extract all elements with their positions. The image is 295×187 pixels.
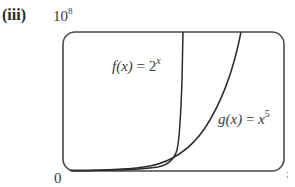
curve-g-power	[70, 32, 241, 171]
viewing-window-plot	[0, 0, 295, 187]
f-function-label: f(x) = 2x	[112, 55, 161, 75]
trailing-punctuation: ;	[286, 168, 289, 179]
viewing-window-frame	[63, 32, 284, 171]
g-function-label: g(x) = x5	[218, 108, 270, 128]
curve-f-exponential	[70, 32, 183, 171]
